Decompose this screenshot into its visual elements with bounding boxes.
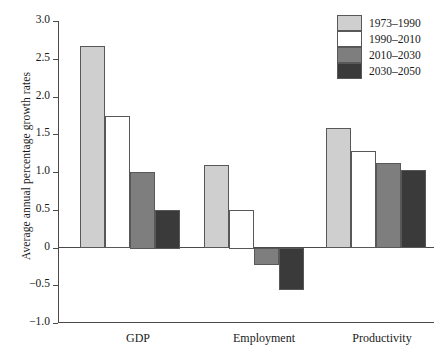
y-axis-line — [58, 21, 59, 323]
bar-employment-2010-2030 — [254, 248, 279, 266]
y-tick-1.5: 1.5 — [53, 134, 58, 135]
legend-label: 2030–2050 — [369, 65, 421, 77]
y-tick-label: 2.5 — [36, 51, 50, 63]
bar-gdp-1990-2010 — [105, 116, 130, 248]
bar-employment-1973-1990 — [204, 165, 229, 248]
y-axis-title: Average annual percentage growth rates — [20, 36, 32, 296]
legend-item: 1973–1990 — [337, 15, 439, 31]
bar-employment-2030-2050 — [279, 248, 304, 291]
x-axis-line — [58, 322, 434, 323]
y-tick-label: −0.5 — [29, 277, 50, 289]
y-tick-3.0: 3.0 — [53, 21, 58, 22]
y-tick-label: 0 — [44, 240, 50, 252]
bar-productivity-2010-2030 — [376, 163, 401, 249]
y-tick-label: 1.5 — [36, 126, 50, 138]
legend-swatch-2010-2030 — [337, 47, 362, 63]
bar-chart-figure: Average annual percentage growth rates 3… — [0, 0, 442, 361]
bar-productivity-1973-1990 — [326, 128, 351, 248]
y-tick-0.5: 0.5 — [53, 210, 58, 211]
legend-swatch-2030-2050 — [337, 63, 362, 79]
x-category-label-productivity: Productivity — [312, 331, 442, 346]
bar-gdp-2030-2050 — [155, 210, 180, 249]
y-tick-1.0: 1.0 — [53, 172, 58, 173]
bar-employment-1990-2010 — [229, 210, 254, 249]
legend-label: 1973–1990 — [369, 17, 421, 29]
legend-swatch-1973-1990 — [337, 15, 362, 31]
legend-item: 2030–2050 — [337, 63, 439, 79]
bar-gdp-1973-1990 — [80, 46, 105, 249]
bar-productivity-1990-2010 — [351, 151, 376, 249]
legend-swatch-1990-2010 — [337, 31, 362, 47]
legend-item: 1990–2010 — [337, 31, 439, 47]
y-tick-2.5: 2.5 — [53, 59, 58, 60]
y-tick-label: 0.5 — [36, 202, 50, 214]
y-tick-minus-1.0: −1.0 — [53, 323, 58, 324]
legend-label: 2010–2030 — [369, 49, 421, 61]
legend-label: 1990–2010 — [369, 33, 421, 45]
y-tick-label: 1.0 — [36, 164, 50, 176]
y-tick-label: 2.0 — [36, 89, 50, 101]
legend-item: 2010–2030 — [337, 47, 439, 63]
y-tick-0: 0 — [53, 248, 58, 249]
y-tick-2.0: 2.0 — [53, 97, 58, 98]
y-tick-label: −1.0 — [29, 315, 50, 327]
y-tick-minus-0.5: −0.5 — [53, 285, 58, 286]
bar-gdp-2010-2030 — [130, 172, 155, 249]
bar-productivity-2030-2050 — [401, 170, 426, 249]
x-category-label-gdp: GDP — [68, 331, 208, 346]
legend: 1973–1990 1990–2010 2010–2030 2030–2050 — [337, 15, 439, 79]
y-tick-label: 3.0 — [36, 13, 50, 25]
